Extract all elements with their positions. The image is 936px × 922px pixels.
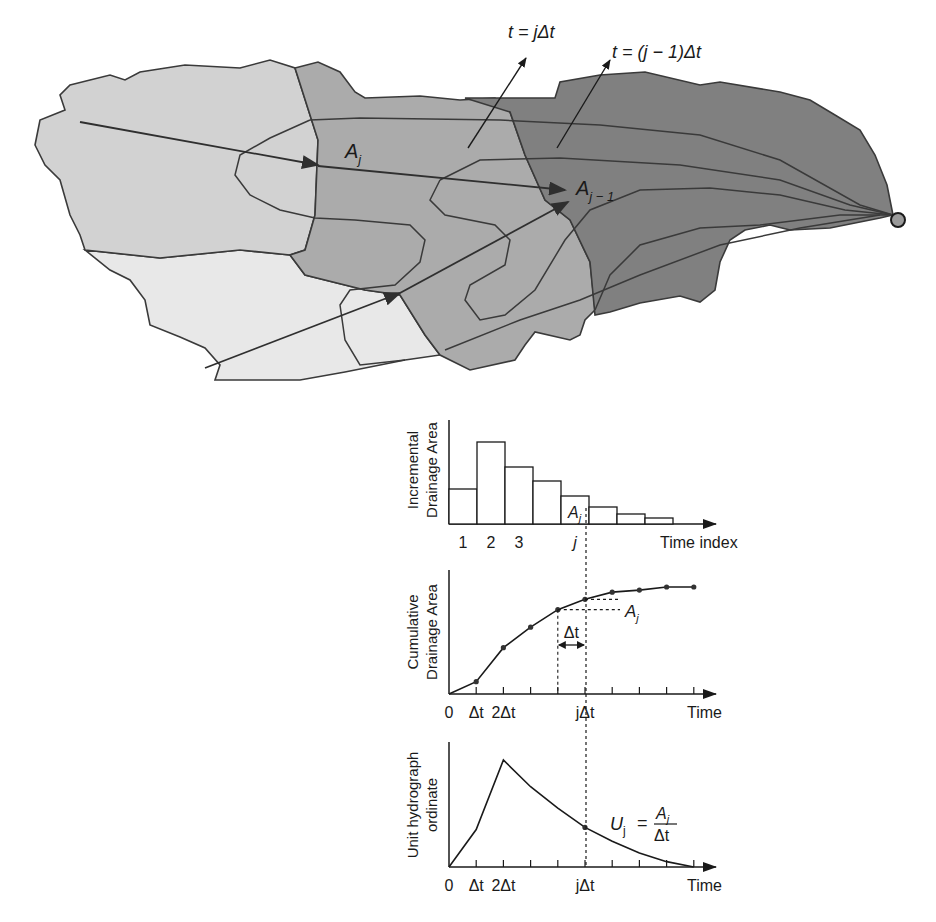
chart2-tick-label: Δt <box>469 704 485 721</box>
chart2-point <box>664 584 669 589</box>
chart1-tick-label: 3 <box>515 534 524 551</box>
chart1-tick-label: j <box>571 534 577 551</box>
chart3-series: 0Δt2ΔtjΔtUj=AjΔt <box>445 760 694 894</box>
unit-hydrograph-chart: 0Δt2ΔtjΔtUj=AjΔt Time Unit hydrograph or… <box>404 742 722 894</box>
chart1-y-label-line2: Drainage Area <box>423 421 440 518</box>
chart3-formula-lhs: Uj <box>610 814 626 838</box>
chart1-bar <box>477 442 505 524</box>
chart1-y-label-line1: Incremental <box>404 431 421 509</box>
isochrone-j-label: t = jΔt <box>508 22 556 42</box>
chart3-uj-point <box>582 825 587 830</box>
isochrone-j-minus-1-label: t = (j − 1)Δt <box>612 42 702 62</box>
cumulative-area-chart: 0Δt2ΔtjΔtΔtAj Time Cumulative Drainage A… <box>404 570 722 721</box>
chart2-y-label-line2: Drainage Area <box>423 583 440 680</box>
chart1-bars: Aj <box>449 442 673 524</box>
chart1-bar <box>645 518 673 524</box>
chart3-formula-numerator: Aj <box>655 805 670 825</box>
watershed-zone-upper-left <box>35 60 318 258</box>
chart3-formula-equals: = <box>637 813 648 833</box>
chart2-aj-label: Aj <box>624 602 639 624</box>
chart2-point <box>637 587 642 592</box>
chart3-tick-label: jΔt <box>575 877 595 894</box>
chart3-x-label: Time <box>687 877 722 894</box>
chart1-bar <box>449 489 477 524</box>
chart2-tick-label: jΔt <box>575 704 595 721</box>
time-area-method-figure: t = jΔt t = (j − 1)Δt Aj Aj − 1 Aj 123j … <box>0 0 936 922</box>
chart1-tick-label: 1 <box>459 534 468 551</box>
chart2-point <box>610 590 615 595</box>
chart3-y-label-line1: Unit hydrograph <box>404 752 421 859</box>
chart1-bar <box>589 507 617 524</box>
watershed-outlet-point <box>891 213 905 227</box>
chart1-tick-label: 2 <box>487 534 496 551</box>
watershed-map: t = jΔt t = (j − 1)Δt Aj Aj − 1 <box>35 22 905 380</box>
chart1-tick-labels: 123j <box>459 534 578 551</box>
chart2-x-label: Time <box>687 704 722 721</box>
chart1-x-label: Time index <box>660 534 738 551</box>
chart1-bar <box>533 481 561 524</box>
chart2-point <box>501 645 506 650</box>
chart3-formula-denominator: Δt <box>654 827 670 844</box>
chart3-tick-label: Δt <box>469 877 485 894</box>
incremental-area-chart: Aj 123j Time index Incremental Drainage … <box>404 420 738 551</box>
chart2-delta-t-label: Δt <box>564 624 580 641</box>
chart3-y-label-line2: ordinate <box>423 778 440 832</box>
chart2-point <box>474 679 479 684</box>
chart3-tick-label: 0 <box>445 877 454 894</box>
chart1-bar <box>505 467 533 524</box>
chart2-y-label-line1: Cumulative <box>404 594 421 669</box>
chart1-bar <box>617 514 645 524</box>
chart2-series: 0Δt2ΔtjΔtΔtAj <box>445 584 697 721</box>
chart3-tick-label: 2Δt <box>491 877 516 894</box>
chart2-tick-label: 0 <box>445 704 454 721</box>
chart2-point <box>691 584 696 589</box>
chart2-point <box>528 625 533 630</box>
chart2-tick-label: 2Δt <box>491 704 516 721</box>
